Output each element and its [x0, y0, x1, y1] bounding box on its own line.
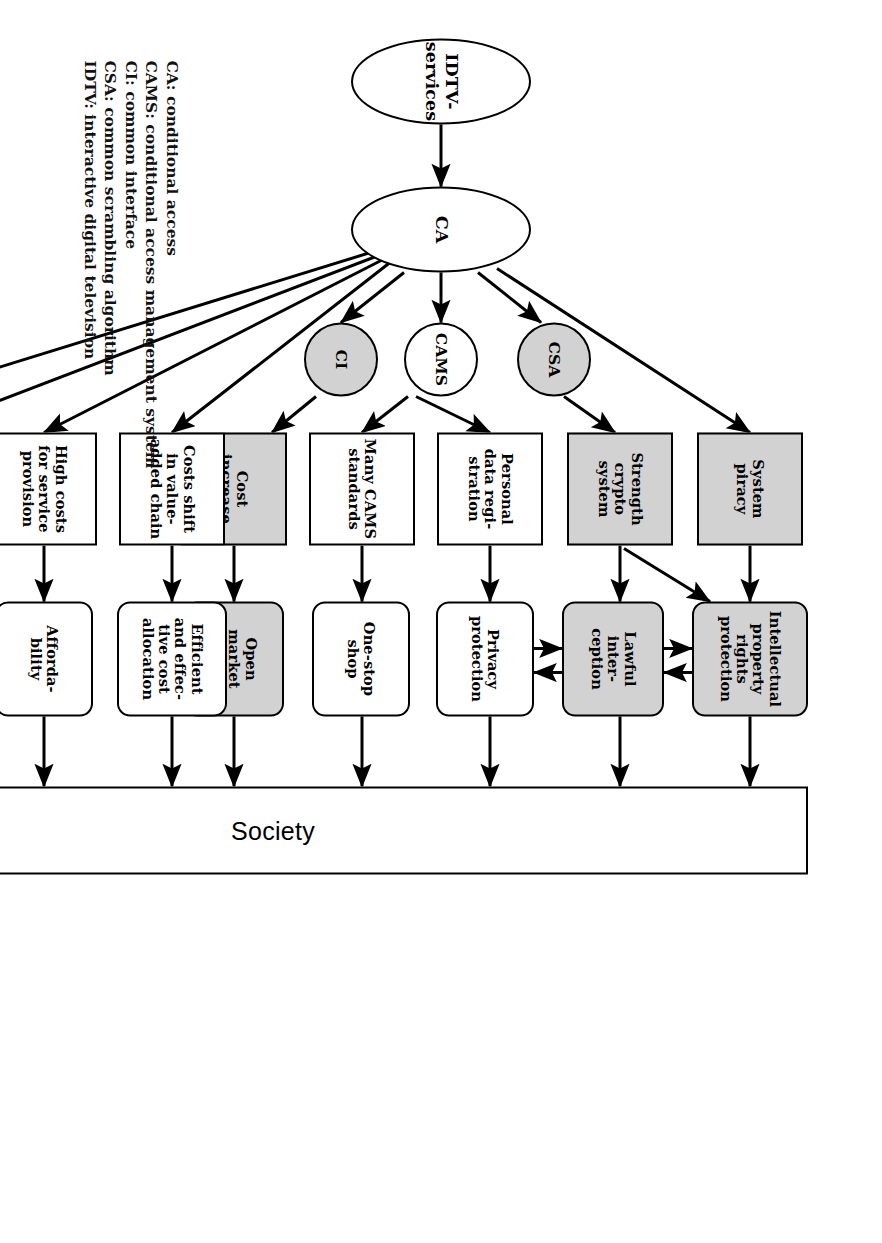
node-label: CSA [545, 341, 562, 377]
legend-line-csa: CSA: common scrambling algorithm [100, 60, 121, 468]
node-label: CA [431, 215, 451, 243]
node-cost-allocation[interactable]: Efficient and effec- tive cost allocatio… [117, 601, 227, 716]
node-label: Efficient and effec- tive cost allocatio… [139, 608, 204, 709]
node-ci[interactable]: CI [304, 322, 378, 396]
node-label: CI [332, 349, 349, 369]
node-strength-crypto-system[interactable]: Strength crypto system [567, 432, 673, 545]
node-personal-data-registration[interactable]: Personal data regi- stration [437, 432, 543, 545]
node-lawful-interception[interactable]: Lawful inter- ception [562, 601, 664, 716]
node-system-piracy[interactable]: System piracy [697, 432, 803, 545]
node-ca[interactable]: CA [351, 186, 531, 272]
node-label: Intellectual property rights protection [717, 608, 782, 709]
node-affordability[interactable]: Afforda- bility [0, 601, 93, 716]
node-one-stop-shop[interactable]: One-stop shop [312, 601, 410, 716]
legend: CA: conditional access CAMS: conditional… [79, 60, 182, 468]
node-ipr-protection[interactable]: Intellectual property rights protection [692, 601, 808, 716]
node-label: Strength crypto system [595, 438, 644, 539]
legend-line-ca: CA: conditional access [161, 60, 182, 468]
node-label: Many CAMS standards [346, 438, 379, 539]
node-label: System piracy [734, 438, 767, 539]
legend-line-idtv: IDTV: interactive digital television [79, 60, 100, 468]
diagram-canvas: IDTV-services CA CSA CAMS CI System pira… [0, 0, 882, 1243]
legend-line-cams: CAMS: conditional access management syst… [141, 60, 162, 468]
node-label: Personal data regi- stration [465, 438, 514, 539]
node-society[interactable]: Society [0, 786, 808, 874]
node-label: Lawful inter- ception [588, 608, 637, 709]
node-label: Society [231, 816, 315, 844]
node-label: IDTV-services [421, 40, 460, 122]
node-cams[interactable]: CAMS [404, 322, 478, 396]
node-csa[interactable]: CSA [517, 322, 591, 396]
node-privacy-protection[interactable]: Privacy protection [436, 601, 534, 716]
diagram-rotation-wrapper: IDTV-services CA CSA CAMS CI System pira… [0, 0, 882, 1243]
node-label: High costs for service provision [19, 438, 68, 539]
node-label: Privacy protection [469, 608, 502, 709]
legend-line-ci: CI: common interface [120, 60, 141, 468]
node-many-cams-standards[interactable]: Many CAMS standards [309, 432, 415, 545]
node-label: CAMS [432, 332, 449, 385]
node-label: Afforda- bility [28, 608, 61, 709]
node-idtv-services[interactable]: IDTV-services [351, 38, 531, 124]
node-label: One-stop shop [345, 608, 378, 709]
